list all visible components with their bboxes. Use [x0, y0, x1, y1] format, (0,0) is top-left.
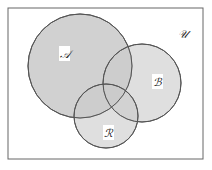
venn-diagram: 𝒜 ℬ ℛ 𝒰 [0, 0, 212, 170]
set-r-label: ℛ [104, 127, 114, 140]
set-b-label: ℬ [153, 76, 163, 89]
